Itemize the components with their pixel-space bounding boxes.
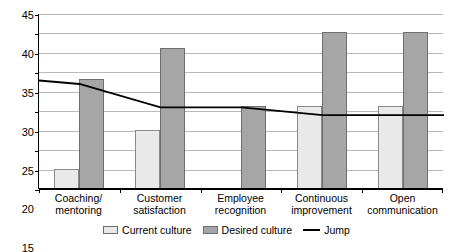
x-axis-label-4: Continuousimprovement (281, 192, 362, 216)
x-axis-label-line: Coaching/ (38, 192, 119, 204)
chart-legend: Current cultureDesired cultureJump (0, 224, 453, 236)
desired-culture-swatch (203, 226, 218, 234)
x-axis-label-line: mentoring (38, 204, 119, 216)
current-culture-swatch (103, 226, 118, 234)
jump-line-swatch (303, 229, 320, 231)
x-axis-label-5: Opencommunication (362, 192, 443, 216)
bar-desired-culture-5[interactable] (403, 32, 428, 188)
plot-area: 051015202530354045 (38, 14, 443, 189)
category-group-4 (281, 14, 362, 188)
y-tick-label-25: 25 (22, 165, 34, 176)
x-axis-label-1: Coaching/mentoring (38, 192, 119, 216)
bar-current-culture-2[interactable] (135, 130, 160, 188)
y-tick-label-45: 45 (22, 10, 34, 21)
legend-label: Current culture (122, 224, 191, 236)
x-axis-label-line: Employee (200, 192, 281, 204)
y-tick-label-15: 15 (22, 243, 34, 252)
x-axis-label-2: Customersatisfaction (119, 192, 200, 216)
x-axis-label-line: recognition (200, 204, 281, 216)
category-group-3 (201, 14, 282, 188)
y-tick-label-20: 20 (22, 204, 34, 215)
x-axis-label-line: Customer (119, 192, 200, 204)
x-axis-label-line: Open (362, 192, 443, 204)
legend-label: Jump (324, 224, 350, 236)
y-tick-label-35: 35 (22, 87, 34, 98)
bars-layer (39, 14, 443, 188)
bar-current-culture-5[interactable] (378, 106, 403, 188)
y-tick-label-40: 40 (22, 48, 34, 59)
x-axis-label-line: satisfaction (119, 204, 200, 216)
category-group-2 (120, 14, 201, 188)
x-axis-label-3: Employeerecognition (200, 192, 281, 216)
category-group-5 (362, 14, 443, 188)
x-axis-label-line: improvement (281, 204, 362, 216)
category-group-1 (39, 14, 120, 188)
bar-current-culture-4[interactable] (297, 106, 322, 188)
gridline-0: 0 (39, 189, 443, 190)
legend-item-desired-culture[interactable]: Desired culture (203, 224, 293, 236)
x-axis-label-line: Continuous (281, 192, 362, 204)
legend-item-current-culture[interactable]: Current culture (103, 224, 191, 236)
legend-label: Desired culture (222, 224, 293, 236)
legend-item-jump[interactable]: Jump (303, 224, 350, 236)
x-axis-label-line: communication (362, 204, 443, 216)
bar-desired-culture-1[interactable] (79, 79, 104, 188)
bar-desired-culture-3[interactable] (241, 106, 266, 188)
bar-desired-culture-2[interactable] (160, 48, 185, 188)
x-axis-labels: Coaching/mentoringCustomersatisfactionEm… (38, 192, 443, 216)
bar-current-culture-1[interactable] (54, 169, 79, 188)
bar-desired-culture-4[interactable] (322, 32, 347, 188)
y-tick-label-30: 30 (22, 126, 34, 137)
bar-line-chart: 051015202530354045 Coaching/mentoringCus… (0, 0, 453, 252)
